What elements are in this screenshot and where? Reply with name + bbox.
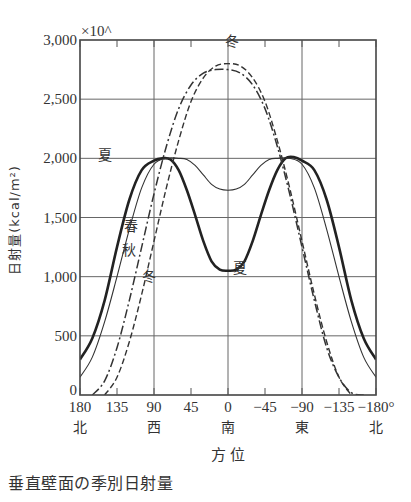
x-tick-label: 0 [224, 399, 232, 415]
x-tick-label: −45 [253, 399, 276, 415]
y-tick-label: 0 [70, 382, 78, 398]
x-tick-label: −180° [358, 399, 395, 415]
x-axis-label: 方 位 [211, 446, 246, 464]
series-annotation: 秋 [122, 242, 136, 258]
series-annotation: 夏 [98, 147, 112, 163]
direction-label: 北 [369, 419, 383, 435]
y-tick-label: 500 [55, 328, 78, 344]
y-multiplier-label: ×10^ [81, 23, 112, 39]
direction-label: 北 [73, 419, 87, 435]
x-tick-label: 90 [147, 399, 162, 415]
series-annotation: 春 [124, 218, 138, 234]
series-annotation: 冬 [142, 268, 156, 284]
x-tick-label: 45 [184, 399, 199, 415]
y-tick-label: 2,000 [43, 150, 77, 166]
direction-label: 西 [147, 419, 161, 435]
y-tick-label: 1,500 [43, 210, 77, 226]
direction-label: 東 [295, 419, 309, 435]
x-tick-label: 135 [106, 399, 129, 415]
x-tick-label: 180 [69, 399, 92, 415]
y-axis-ticks: 05001,0001,5002,0002,5003,000 [43, 32, 77, 398]
figure-caption: 垂直壁面の季別日射量 [8, 470, 173, 494]
y-tick-label: 2,500 [43, 91, 77, 107]
y-axis-label: 日射量(kcal/m²) [7, 165, 22, 275]
y-tick-label: 1,000 [43, 269, 77, 285]
y-tick-label: 3,000 [43, 32, 77, 48]
seasonal-radiation-chart: 18013590450−45−90−135−180°北西南東北 05001,00… [0, 0, 411, 502]
series-annotation: 夏 [233, 260, 247, 276]
x-tick-label: −90 [290, 399, 313, 415]
x-tick-label: −135 [324, 399, 355, 415]
direction-label: 南 [221, 419, 235, 435]
series-annotation: 冬 [225, 33, 239, 49]
